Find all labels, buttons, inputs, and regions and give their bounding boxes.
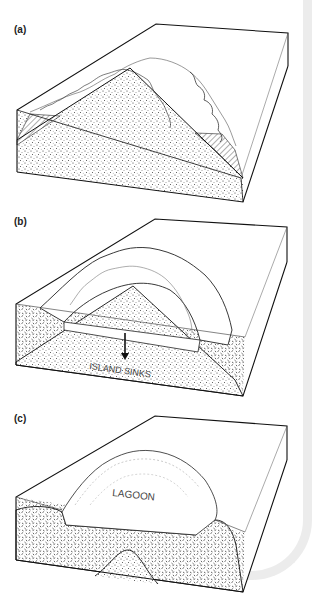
panel-b-label: (b) bbox=[14, 216, 27, 227]
figure-canvas: ISLAND SINKS LAGOON bbox=[0, 0, 314, 602]
panel-c-label: (c) bbox=[14, 413, 26, 424]
panel-a-diagram bbox=[17, 24, 288, 202]
panel-a-label: (a) bbox=[14, 24, 26, 35]
panel-c-diagram bbox=[16, 416, 287, 592]
